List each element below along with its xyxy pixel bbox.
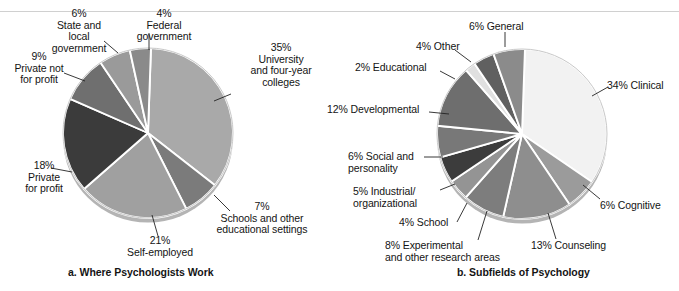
- pie-label-other: 4% Other: [416, 41, 486, 53]
- panel-caption-b: b. Subfields of Psychology: [457, 266, 590, 278]
- pie-label-experimental: 8% Experimental and other research areas: [385, 240, 535, 263]
- pie-label-counseling: 13% Counseling: [531, 240, 635, 252]
- figure-root: 6% State and local government4% Federal …: [0, 0, 679, 291]
- pie-label-industrial-organizational: 5% Industrial/ organizational: [353, 186, 455, 209]
- pie-label-developmental: 12% Developmental: [327, 104, 451, 116]
- pie-label-social-and-personality: 6% Social and personality: [348, 151, 452, 174]
- pie-label-school: 4% School: [399, 217, 477, 229]
- pie-label-cognitive: 6% Cognitive: [600, 200, 679, 212]
- pie-label-educational: 2% Educational: [355, 62, 455, 74]
- pie-label-clinical: 34% Clinical: [607, 80, 679, 92]
- leader-line-experimental: [478, 211, 487, 240]
- pie-label-general: 6% General: [469, 21, 549, 33]
